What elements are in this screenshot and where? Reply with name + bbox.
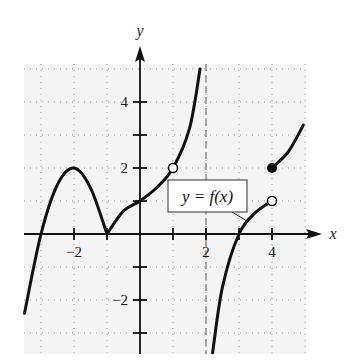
function-label: y = f(x) (180, 187, 233, 206)
y-axis-label: y (134, 22, 144, 40)
y-tick-label: 4 (121, 94, 129, 110)
y-tick-label: 2 (121, 160, 129, 176)
function-graph: −2 2 4 4 2 −2 y x y = f(x) (0, 0, 353, 363)
x-tick-label: 2 (202, 244, 210, 260)
open-circle-icon (169, 164, 178, 173)
grid-background (24, 64, 306, 354)
y-tick-label: −2 (112, 292, 128, 308)
open-circle-icon (268, 197, 277, 206)
x-axis-label: x (328, 225, 336, 242)
x-tick-label: 4 (268, 244, 276, 260)
closed-dot-icon (267, 163, 277, 173)
x-tick-label: −2 (66, 244, 82, 260)
